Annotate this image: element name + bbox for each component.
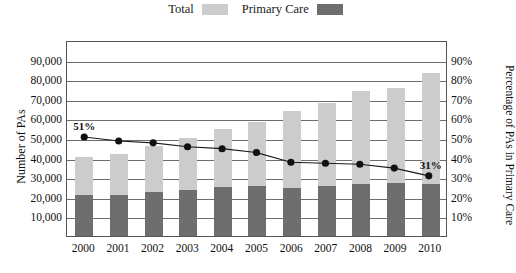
data-point-2002[interactable] [150,139,157,146]
x-tick-2006: 2006 [280,242,303,254]
data-point-2004[interactable] [219,145,226,152]
data-point-2008[interactable] [356,161,363,168]
y-tick-right-20: 20% [451,192,472,204]
x-tick-2001: 2001 [106,242,129,254]
x-tick-2003: 2003 [176,242,199,254]
y-tick-left-80000: 80,000 [30,74,62,86]
x-tick-2010: 2010 [418,242,441,254]
x-tick-2000: 2000 [72,242,95,254]
y-tick-right-10: 10% [451,211,472,223]
legend-label-total: Total [168,2,194,17]
data-point-2006[interactable] [287,159,294,166]
legend-item-total: Total [168,2,228,17]
y-tick-right-80: 80% [451,74,472,86]
x-tick-2004: 2004 [210,242,233,254]
y-axis-left-ticks: 10,00020,00030,00040,00050,00060,00070,0… [0,41,62,237]
y-tick-right-90: 90% [451,55,472,67]
y-axis-right-title: Percentage of PAs in Primary Care [504,50,516,240]
y-tick-left-70000: 70,000 [30,94,62,106]
data-point-2010[interactable] [425,172,432,179]
percentage-line [84,137,429,176]
y-tick-left-50000: 50,000 [30,133,62,145]
data-label-2000: 51% [73,120,95,132]
y-tick-right-70: 70% [451,94,472,106]
data-label-2010: 31% [420,159,442,171]
y-tick-left-20000: 20,000 [30,192,62,204]
y-tick-left-60000: 60,000 [30,113,62,125]
y-tick-left-90000: 90,000 [30,55,62,67]
data-point-2009[interactable] [391,165,398,172]
x-tick-2007: 2007 [314,242,337,254]
y-tick-right-60: 60% [451,113,472,125]
y-tick-left-10000: 10,000 [30,211,62,223]
data-point-2003[interactable] [184,143,191,150]
x-axis-ticks: 2000200120022003200420052006200720082009… [66,242,447,262]
y-tick-right-30: 30% [451,172,472,184]
data-point-2005[interactable] [253,149,260,156]
chart-legend: Total Primary Care [0,2,511,17]
data-point-2000[interactable] [81,133,88,140]
y-tick-left-40000: 40,000 [30,153,62,165]
y-axis-right-ticks: 10%20%30%40%50%60%70%80%90% [451,41,495,237]
plot-area: 51%31% [66,41,447,237]
x-tick-2008: 2008 [349,242,372,254]
data-point-2001[interactable] [115,137,122,144]
legend-label-primary-care: Primary Care [242,2,309,17]
x-tick-2002: 2002 [141,242,164,254]
percentage-line-layer [67,42,446,236]
y-tick-right-40: 40% [451,153,472,165]
y-tick-left-30000: 30,000 [30,172,62,184]
legend-item-primary-care: Primary Care [242,2,343,17]
x-tick-2005: 2005 [245,242,268,254]
y-tick-right-50: 50% [451,133,472,145]
legend-swatch-total [202,4,228,15]
legend-swatch-primary-care [317,4,343,15]
x-tick-2009: 2009 [384,242,407,254]
data-point-2007[interactable] [322,160,329,167]
